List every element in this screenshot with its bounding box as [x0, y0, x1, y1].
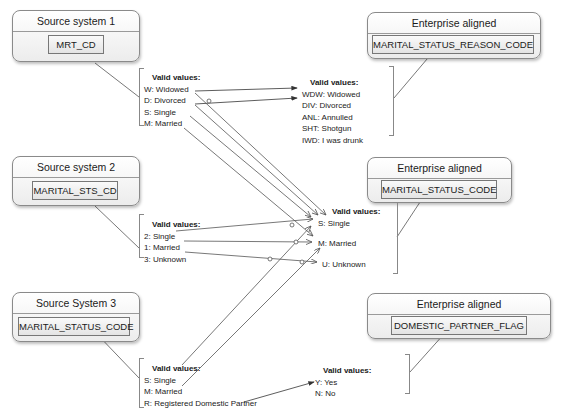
value-item: M: Married [144, 386, 257, 398]
value-item: 3: Unknown [144, 254, 200, 266]
field-link-line [95, 206, 139, 248]
value-item: ANL: Annulled [302, 112, 363, 124]
mapping-connectors [0, 0, 561, 418]
source-2-valid-values: Valid values: 2: Single 1: Married 3: Un… [144, 219, 200, 265]
valid-values-label: Valid values: [302, 77, 363, 89]
value-item: DIV: Divorced [302, 100, 363, 112]
value-item: S: Single [318, 218, 380, 230]
source-system-3-field[interactable]: MARITAL_STATUS_CODE [18, 317, 130, 336]
value-item: IWD: I was drunk [302, 135, 363, 147]
field-link-line [95, 63, 139, 97]
source-system-2-title: Source system 2 [13, 157, 139, 178]
value-item: WDW: Widowed [302, 89, 363, 101]
value-item: Y: Yes [315, 377, 371, 389]
value-item: M: Married [318, 238, 380, 250]
value-item: SHT: Shotgun [302, 123, 363, 135]
target-reason-code-title: Enterprise aligned [368, 13, 540, 34]
value-item: R: Registered Domestic Partner [144, 398, 257, 410]
value-item: U: Unknown [318, 259, 380, 271]
target-domestic-partner-title: Enterprise aligned [368, 294, 550, 315]
valid-values-label: Valid values: [144, 72, 200, 84]
value-item: S: Single [144, 107, 200, 119]
field-link-line [410, 334, 444, 372]
valid-values-label: Valid values: [315, 365, 371, 377]
target-reason-code-valid-values: Valid values: WDW: Widowed DIV: Divorced… [302, 77, 363, 146]
source-1-valid-values: Valid values: W: Widowed D: Divorced S: … [144, 72, 200, 130]
target-marital-status-bracket [393, 202, 398, 274]
valid-values-label: Valid values: [144, 219, 200, 231]
source-3-valid-values: Valid values: S: Single M: Married R: Re… [144, 363, 257, 409]
value-item: M: Married [144, 118, 200, 130]
source-system-2-field[interactable]: MARITAL_STS_CD [32, 181, 118, 200]
value-item: S: Single [144, 375, 257, 387]
valid-values-label: Valid values: [144, 363, 257, 375]
source-system-1-title: Source system 1 [13, 11, 139, 32]
value-item: W: Widowed [144, 84, 200, 96]
source-system-1-field[interactable]: MRT_CD [48, 35, 104, 54]
target-domestic-partner-bracket [405, 354, 410, 394]
value-item: N: No [315, 388, 371, 400]
target-reason-code-bracket [389, 66, 394, 136]
target-domestic-partner-field[interactable]: DOMESTIC_PARTNER_FLAG [391, 316, 527, 335]
value-item: D: Divorced [144, 95, 200, 107]
target-domestic-partner-valid-values: Valid values: Y: Yes N: No [315, 365, 371, 400]
target-marital-status-valid-values: Valid values: S: Single M: Married U: Un… [318, 206, 380, 270]
valid-values-label: Valid values: [318, 206, 380, 218]
target-reason-code-field[interactable]: MARITAL_STATUS_REASON_CODE [372, 35, 534, 54]
target-marital-status-title: Enterprise aligned [368, 158, 511, 179]
value-item: 2: Single [144, 231, 200, 243]
target-marital-status-field[interactable]: MARITAL_STATUS_CODE [381, 180, 497, 199]
value-item: 1: Married [144, 242, 200, 254]
source-system-3-title: Source System 3 [13, 293, 139, 314]
